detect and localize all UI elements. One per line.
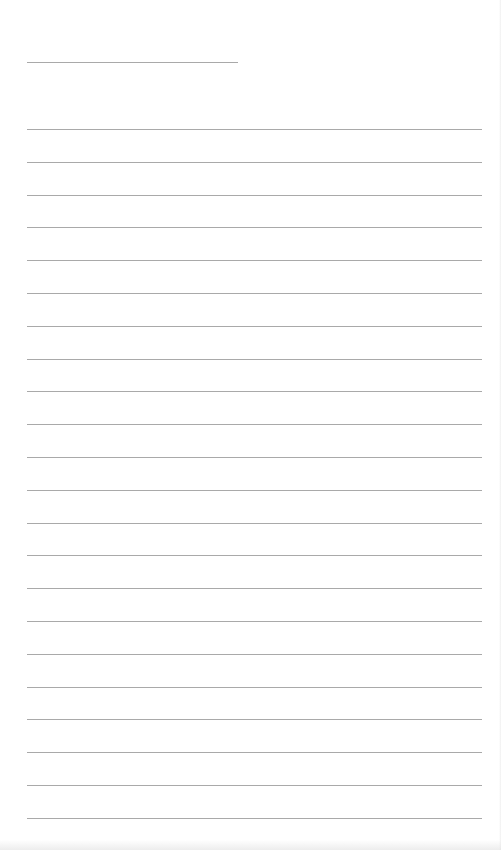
ruled-line (27, 523, 482, 524)
ruled-line (27, 293, 482, 294)
ruled-line (27, 260, 482, 261)
ruled-line (27, 457, 482, 458)
ruled-line (27, 490, 482, 491)
ruled-line (27, 391, 482, 392)
ruled-line (27, 719, 482, 720)
ruled-line (27, 654, 482, 655)
ruled-line (27, 621, 482, 622)
ruled-line (27, 359, 482, 360)
ruled-line (27, 424, 482, 425)
ruled-line (27, 129, 482, 130)
ruled-line (27, 162, 482, 163)
title-write-line (27, 62, 238, 63)
ruled-line (27, 227, 482, 228)
ruled-line (27, 785, 482, 786)
ruled-line (27, 818, 482, 819)
page-bottom-shadow (0, 840, 501, 850)
lined-paper-page (0, 0, 501, 850)
ruled-line (27, 555, 482, 556)
ruled-line (27, 752, 482, 753)
ruled-line (27, 687, 482, 688)
ruled-line (27, 195, 482, 196)
ruled-line (27, 326, 482, 327)
ruled-line (27, 588, 482, 589)
